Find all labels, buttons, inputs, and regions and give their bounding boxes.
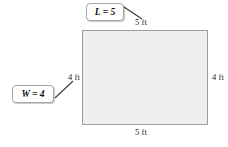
dimension-label-bottom: 5 ft bbox=[135, 127, 147, 137]
callout-box-length: L = 5 bbox=[86, 3, 124, 21]
rectangle-shape bbox=[82, 30, 208, 125]
callout-label-length: L = 5 bbox=[95, 7, 115, 17]
dimension-label-top: 5 ft bbox=[135, 17, 147, 27]
dimension-label-left: 4 ft bbox=[68, 72, 80, 82]
diagram-canvas: 5 ft 5 ft 4 ft 4 ft L = 5 W = 4 bbox=[0, 0, 228, 147]
leader-line-width bbox=[55, 81, 73, 98]
dimension-label-right: 4 ft bbox=[212, 72, 224, 82]
callout-label-width: W = 4 bbox=[21, 89, 44, 99]
callout-box-width: W = 4 bbox=[12, 85, 54, 103]
